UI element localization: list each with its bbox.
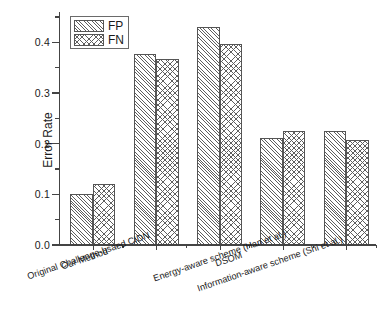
y-tick-minor [55, 67, 59, 68]
y-axis-tick-labels: 0.00.10.20.30.4 [0, 0, 50, 310]
bar-fn-1 [156, 59, 179, 245]
x-tick-minor [376, 245, 377, 248]
legend-item-fp: FP [74, 19, 124, 32]
x-category-label-2: DSOM [214, 250, 243, 268]
y-tick-major [52, 92, 59, 93]
bar-fn-0 [93, 184, 116, 245]
bar-fn-2 [220, 44, 243, 245]
y-tick-label: 0.2 [35, 138, 50, 150]
x-tick-major [93, 245, 94, 250]
legend: FP FN [70, 16, 129, 49]
x-tick-minor [313, 245, 314, 248]
y-tick-label: 0.0 [35, 239, 50, 251]
y-tick-minor [55, 16, 59, 17]
y-tick-major [52, 143, 59, 144]
x-axis-line [59, 244, 376, 245]
legend-swatch-fn [74, 34, 104, 46]
x-tick-minor [186, 245, 187, 248]
legend-label-fn: FN [108, 34, 124, 46]
x-tick-major [346, 245, 347, 250]
x-category-label-0: Our Method [60, 246, 109, 271]
legend-swatch-fp [74, 20, 104, 32]
bar-fp-2 [197, 27, 220, 245]
x-tick-major [156, 245, 157, 250]
bar-fp-1 [134, 54, 157, 245]
y-tick-minor [55, 168, 59, 169]
bar-fp-0 [70, 194, 93, 245]
y-tick-label: 0.3 [35, 87, 50, 99]
bar-chart-figure: Error Rate 0.00.10.20.30.4 FP FN Our Met… [0, 0, 390, 310]
bar-fp-4 [324, 131, 347, 245]
legend-label-fp: FP [108, 20, 123, 32]
bar-fn-3 [283, 131, 306, 245]
x-tick-major [220, 245, 221, 250]
x-tick-minor [249, 245, 250, 248]
y-tick-label: 0.4 [35, 36, 50, 48]
y-tick-label: 0.1 [35, 188, 50, 200]
x-tick-minor [122, 245, 123, 248]
bar-fp-3 [260, 138, 283, 245]
x-tick-major [283, 245, 284, 250]
y-tick-major [52, 194, 59, 195]
y-tick-minor [55, 219, 59, 220]
y-tick-major [52, 42, 59, 43]
y-axis-line [59, 12, 60, 245]
y-tick-minor [55, 118, 59, 119]
y-tick-major [52, 244, 59, 245]
legend-item-fn: FN [74, 33, 124, 46]
bar-fn-4 [346, 140, 369, 245]
